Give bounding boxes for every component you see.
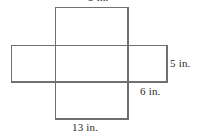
net-vertical-column (56, 8, 129, 120)
dimension-label-right-height: 5 in. (170, 57, 191, 69)
dimension-label-right-width: 6 in. (140, 85, 161, 97)
box-net-figure: 5 in. 5 in. 6 in. 13 in. (0, 0, 197, 136)
net-horizontal-band (12, 46, 168, 83)
dimension-label-top-width: 5 in. (88, 0, 109, 1)
net-drawing (0, 0, 197, 136)
dimension-label-bottom-width: 13 in. (72, 121, 98, 133)
